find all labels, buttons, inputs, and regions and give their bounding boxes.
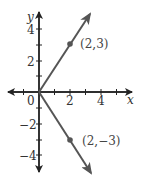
origin-label: 0 xyxy=(27,94,35,108)
point-2-neg3 xyxy=(67,137,73,143)
y-tick-4: 4 xyxy=(27,23,35,37)
upper-ray xyxy=(39,14,90,92)
coordinate-plot: y x 0 2 4 4 2 −2 −4 (2,3) (2,−3) xyxy=(0,0,145,186)
point-2-3 xyxy=(67,41,73,47)
x-tick-2: 2 xyxy=(66,94,74,108)
y-tick-neg2: −2 xyxy=(19,118,37,132)
y-tick-neg4: −4 xyxy=(19,149,37,163)
x-tick-4: 4 xyxy=(97,94,105,108)
lower-ray xyxy=(39,92,91,173)
point-label-lower: (2,−3) xyxy=(82,134,121,148)
x-axis-label: x xyxy=(127,93,134,107)
y-tick-2: 2 xyxy=(27,55,35,69)
y-axis-label: y xyxy=(26,10,34,24)
point-label-upper: (2,3) xyxy=(80,37,108,51)
